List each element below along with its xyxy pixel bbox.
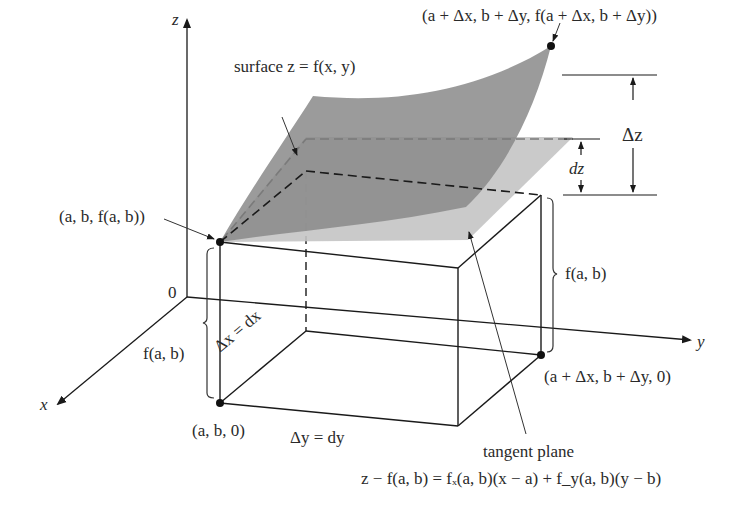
base-point-top-label: (a, b, f(a, b)) xyxy=(59,208,145,225)
top-point-pointer xyxy=(553,23,560,41)
top-point-label: (a + Δx, b + Δy, f(a + Δx, b + Δy)) xyxy=(422,7,657,24)
surface-label: surface z = f(x, y) xyxy=(234,58,355,75)
origin-label: 0 xyxy=(168,284,177,301)
f-ab-right-label: f(a, b) xyxy=(565,265,607,282)
delta-y-label: Δy = dy xyxy=(290,429,345,446)
diagram-graphic xyxy=(0,0,755,512)
differential-diagram: z x y 0 (a + Δx, b + Δy, f(a + Δx, b + Δ… xyxy=(0,0,755,512)
z-axis-label: z xyxy=(172,11,179,28)
base-point-pointer xyxy=(164,219,214,239)
x-axis-label: x xyxy=(40,396,48,413)
y-axis-label: y xyxy=(697,333,705,350)
delta-z-label: Δz xyxy=(622,125,643,144)
tangent-plane-label: tangent plane xyxy=(483,443,574,460)
base-point-ground-label: (a, b, 0) xyxy=(192,422,245,439)
dz-label: dz xyxy=(569,160,584,177)
f-ab-left-label: f(a, b) xyxy=(143,345,185,362)
tangent-plane-pointer xyxy=(469,232,526,434)
tangent-equation-label: z − f(a, b) = fₓ(a, b)(x − a) + f_y(a, b… xyxy=(361,470,661,487)
far-ground-point-label: (a + Δx, b + Δy, 0) xyxy=(544,368,671,385)
